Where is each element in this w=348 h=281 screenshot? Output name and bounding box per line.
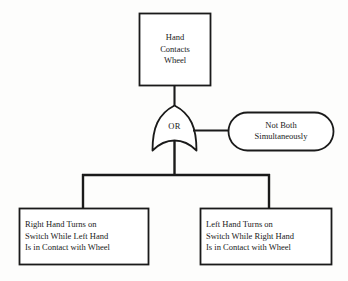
fault-tree-canvas [0, 0, 348, 281]
fault-tree-diagram: Hand Contacts Wheel OR Not Both Simultan… [0, 0, 348, 281]
constraint-stadium [229, 113, 334, 151]
basic-event-right-box [201, 209, 332, 265]
top-event-box [140, 14, 211, 86]
basic-event-left-box [20, 209, 149, 265]
